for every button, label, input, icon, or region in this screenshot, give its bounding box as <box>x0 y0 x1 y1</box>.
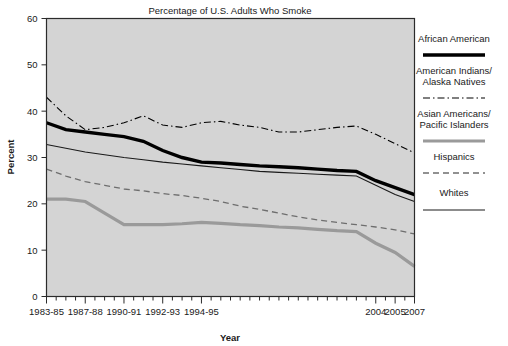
y-tick-label: 60 <box>27 13 38 24</box>
legend-label-3: Asian Americans/ <box>417 108 491 119</box>
chart-legend: African AmericanAmerican Indians/Alaska … <box>416 33 492 210</box>
x-tick-label: 2004 <box>365 306 386 317</box>
y-tick-label: 30 <box>27 152 38 163</box>
legend-label-2: Alaska Natives <box>423 76 486 87</box>
y-axis-title: Percent <box>5 139 16 175</box>
x-tick-label: 1992-93 <box>145 306 180 317</box>
plot-area-background <box>47 19 415 297</box>
chart-title: Percentage of U.S. Adults Who Smoke <box>148 5 311 16</box>
x-tick-label: 2005 <box>385 306 406 317</box>
y-tick-label: 50 <box>27 59 38 70</box>
x-tick-label: 2007 <box>404 306 425 317</box>
y-tick-label: 40 <box>27 106 38 117</box>
x-tick-label: 1983-85 <box>29 306 64 317</box>
y-tick-label: 0 <box>32 291 37 302</box>
legend-label-1: African American <box>418 33 490 44</box>
legend-label-3: Pacific Islanders <box>419 119 488 130</box>
x-axis-ticks <box>47 297 415 304</box>
legend-label-4: Hispanics <box>433 151 474 162</box>
x-tick-label: 1990-91 <box>107 306 142 317</box>
legend-label-2: American Indians/ <box>416 65 492 76</box>
x-tick-label: 1987-88 <box>68 306 103 317</box>
y-tick-label: 20 <box>27 198 38 209</box>
legend-label-5: Whites <box>439 187 468 198</box>
x-tick-label: 1994-95 <box>184 306 219 317</box>
x-axis-tick-labels: 1983-851987-881990-911992-931994-9520042… <box>29 306 425 317</box>
chart-figure: Percentage of U.S. Adults Who Smoke Perc… <box>0 0 508 346</box>
smoking-percentage-line-chart: Percentage of U.S. Adults Who Smoke Perc… <box>0 0 508 346</box>
y-tick-label: 10 <box>27 245 38 256</box>
x-axis-title: Year <box>220 332 240 343</box>
y-axis-ticks: 0102030405060 <box>27 13 47 302</box>
